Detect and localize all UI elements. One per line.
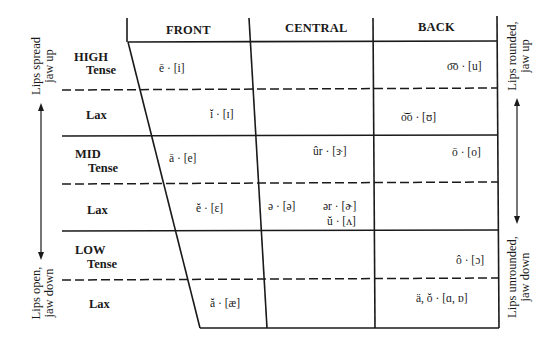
vowel-low-lax-front: ă · [æ] — [210, 298, 240, 310]
header-bottom-line — [128, 41, 497, 42]
mid-tense-lax-dashed — [62, 182, 498, 184]
row-label-high-lax: Lax — [86, 109, 107, 122]
vowel-high-lax-back: o͝o · [ʊ] — [401, 112, 436, 124]
central-back-divider — [373, 18, 375, 328]
vowel-mid-tense-front: ā · [e] — [169, 153, 196, 165]
side-label-right-top: Lips rounded, jaw up — [506, 11, 532, 101]
row-label-low-tense: Tense — [87, 258, 117, 271]
front-central-divider — [249, 18, 267, 328]
row-label-high-tense: Tense — [86, 64, 116, 77]
front-slanted-border — [128, 42, 200, 328]
vowel-high-tense-back: o͞o · [u] — [447, 61, 482, 73]
high-tense-lax-dashed — [62, 88, 498, 90]
row-label-mid-tense: Tense — [88, 162, 118, 175]
side-label-right-top-line2: jaw up — [519, 11, 532, 101]
row-label-low: LOW — [75, 244, 106, 257]
side-label-left-bottom-line2: jaw down — [43, 248, 56, 338]
vowel-mid-tense-central: ûr · [ɝ] — [313, 146, 347, 158]
side-label-left-top-line2: jaw up — [43, 21, 56, 111]
vowel-mid-lax-central-u: ŭ · [ʌ] — [327, 216, 356, 228]
row-label-mid: MID — [75, 148, 101, 161]
high-mid-separator — [62, 135, 498, 136]
low-tense-lax-dashed — [62, 278, 499, 280]
column-header-central: CENTRAL — [285, 22, 348, 35]
vowel-low-tense-back: ô · [ɔ] — [456, 255, 484, 267]
column-header-back: BACK — [418, 21, 455, 34]
column-header-front: FRONT — [166, 24, 211, 37]
row-label-high: HIGH — [74, 51, 108, 64]
row-label-mid-lax: Lax — [87, 204, 108, 217]
side-label-left-top: Lips spread jaw up — [30, 21, 56, 111]
vowel-high-tense-front: ē · [i] — [159, 63, 185, 75]
side-label-left-bottom: Lips open, jaw down — [30, 248, 56, 338]
vowel-mid-tense-back: ō · [o] — [452, 147, 481, 159]
vowel-low-lax-back: ä, ŏ · [ɑ, ɒ] — [416, 293, 468, 305]
right-double-arrow-icon — [514, 98, 520, 224]
vowel-mid-lax-central-schwa: ə · [ə] — [268, 201, 295, 213]
vowel-high-lax-front: ĭ · [ɪ] — [210, 109, 234, 121]
side-label-right-bottom: Lips unrounded, jaw down — [506, 227, 532, 327]
row-label-low-lax: Lax — [89, 298, 110, 311]
right-border — [497, 16, 499, 328]
side-label-right-bottom-line2: jaw down — [519, 227, 532, 327]
mid-low-separator — [62, 230, 499, 231]
vowel-mid-lax-central-er: ər · [ɚ] — [323, 201, 356, 213]
vowel-mid-lax-front: ĕ · [ɛ] — [196, 203, 223, 215]
left-double-arrow-icon — [38, 103, 44, 260]
